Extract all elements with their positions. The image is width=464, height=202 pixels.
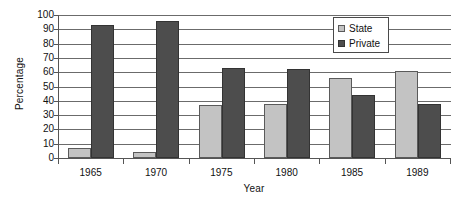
x-tick-mark bbox=[123, 159, 124, 164]
y-tick-mark bbox=[54, 87, 58, 88]
x-tick-label-1975: 1975 bbox=[191, 167, 251, 178]
plot-area bbox=[58, 15, 451, 159]
bar-state-1985 bbox=[329, 78, 352, 158]
bar-state-1989 bbox=[395, 71, 418, 158]
y-tick-label: 10 bbox=[24, 139, 54, 149]
x-tick-label-1989: 1989 bbox=[387, 167, 447, 178]
legend-item-private: Private bbox=[338, 36, 388, 50]
bar-group bbox=[59, 15, 124, 158]
x-tick-mark bbox=[450, 159, 451, 164]
x-tick-label-1985: 1985 bbox=[322, 167, 382, 178]
bar-private-1985 bbox=[352, 95, 375, 158]
x-tick-label-1965: 1965 bbox=[61, 167, 121, 178]
y-tick-mark bbox=[54, 158, 58, 159]
legend-label-state: State bbox=[349, 23, 372, 34]
x-tick-mark bbox=[189, 159, 190, 164]
bar-private-1965 bbox=[91, 25, 114, 158]
y-tick-label: 20 bbox=[24, 124, 54, 134]
bar-group bbox=[386, 15, 451, 158]
legend-swatch-state-icon bbox=[338, 25, 345, 32]
y-tick-label: 30 bbox=[24, 110, 54, 120]
y-tick-label: 40 bbox=[24, 96, 54, 106]
y-tick-label: 0 bbox=[24, 153, 54, 163]
x-tick-mark bbox=[319, 159, 320, 164]
y-tick-mark bbox=[54, 115, 58, 116]
legend-item-state: State bbox=[338, 21, 388, 35]
legend-label-private: Private bbox=[349, 38, 380, 49]
y-tick-mark bbox=[54, 44, 58, 45]
bar-private-1970 bbox=[156, 21, 179, 158]
y-tick-mark bbox=[54, 72, 58, 73]
bar-state-1975 bbox=[199, 105, 222, 158]
bar-private-1980 bbox=[287, 69, 310, 158]
x-tick-mark bbox=[58, 159, 59, 164]
y-tick-mark bbox=[54, 129, 58, 130]
bar-chart: Percentage 0102030405060708090100 196519… bbox=[0, 0, 464, 202]
y-tick-mark bbox=[54, 144, 58, 145]
y-tick-mark bbox=[54, 29, 58, 30]
bar-private-1975 bbox=[222, 68, 245, 158]
x-tick-mark bbox=[254, 159, 255, 164]
y-tick-mark bbox=[54, 58, 58, 59]
y-tick-label: 100 bbox=[24, 10, 54, 20]
bar-group bbox=[124, 15, 189, 158]
x-tick-label-1970: 1970 bbox=[126, 167, 186, 178]
y-tick-label: 80 bbox=[24, 39, 54, 49]
x-tick-mark bbox=[385, 159, 386, 164]
bar-group bbox=[255, 15, 320, 158]
bars-layer bbox=[59, 15, 451, 158]
y-tick-label: 70 bbox=[24, 53, 54, 63]
y-axis-title: Percentage bbox=[14, 34, 25, 134]
y-tick-label: 90 bbox=[24, 24, 54, 34]
bar-state-1970 bbox=[133, 152, 156, 158]
legend: State Private bbox=[333, 17, 389, 53]
y-tick-label: 50 bbox=[24, 82, 54, 92]
x-axis-title: Year bbox=[58, 183, 450, 194]
y-tick-mark bbox=[54, 15, 58, 16]
y-tick-label: 60 bbox=[24, 67, 54, 77]
bar-private-1989 bbox=[418, 104, 441, 158]
y-axis-tick-labels: 0102030405060708090100 bbox=[24, 15, 54, 158]
bar-state-1980 bbox=[264, 104, 287, 158]
bar-group bbox=[190, 15, 255, 158]
bar-state-1965 bbox=[68, 148, 91, 158]
legend-swatch-private-icon bbox=[338, 40, 345, 47]
y-tick-mark bbox=[54, 101, 58, 102]
x-tick-label-1980: 1980 bbox=[257, 167, 317, 178]
